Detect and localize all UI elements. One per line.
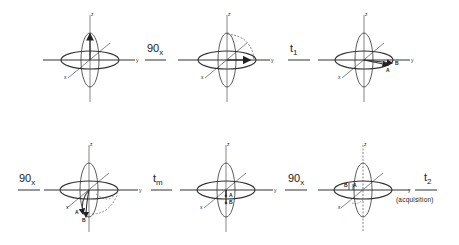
vector-b-label: B [395, 61, 399, 66]
vector-b-label: B [344, 183, 348, 188]
y-axis-label: y [139, 188, 142, 193]
z-axis-label: z [227, 142, 230, 147]
sphere-2 [178, 15, 270, 102]
sphere-5 [180, 145, 273, 232]
final-arrow-label: t2 [424, 172, 432, 186]
vector-a-label: A [229, 193, 233, 198]
y-axis-label: y [271, 58, 274, 63]
vector-a-label: A [75, 210, 79, 215]
step4-arrow-label: 90x [19, 173, 35, 187]
step2-arrow-label: 90x [147, 43, 163, 57]
z-axis-label: z [364, 142, 367, 147]
y-axis-label: y [411, 58, 414, 63]
y-axis-label: y [136, 58, 139, 63]
z-axis-label: z [90, 142, 93, 147]
vector-b-label: B [229, 200, 233, 205]
sphere-4 [44, 145, 138, 232]
vector-b-label: B [82, 218, 86, 223]
step3-arrow-label: t1 [290, 43, 298, 57]
sphere-3 [318, 15, 410, 102]
x-axis-label: x [338, 205, 341, 210]
x-axis-label: x [338, 75, 341, 80]
x-axis-label: x [66, 205, 69, 210]
sphere-1 [43, 15, 135, 102]
sphere-6 [318, 145, 410, 232]
step6-arrow-label: 90x [288, 173, 304, 187]
vector-a-label: A [353, 183, 357, 188]
x-axis-label: x [200, 205, 203, 210]
vector-a-label: A [386, 68, 390, 73]
y-axis-label: y [408, 188, 411, 193]
z-axis-label: z [365, 12, 368, 17]
x-axis-label: x [64, 75, 67, 80]
acquisition-note: (acquisition) [396, 197, 434, 204]
x-axis-label: x [201, 75, 204, 80]
z-axis-label: z [228, 12, 231, 17]
z-axis-label: z [91, 12, 94, 17]
y-axis-label: y [274, 188, 277, 193]
step5-arrow-label: tm [153, 173, 163, 187]
